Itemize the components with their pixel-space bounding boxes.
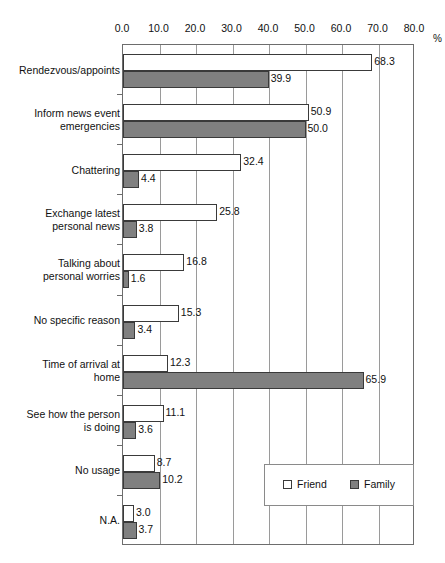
bar-value-family-1: 50.0 xyxy=(308,122,328,135)
axis-tick-mark-7 xyxy=(117,395,122,396)
bar-family-3 xyxy=(123,221,137,238)
bar-family-4 xyxy=(123,271,129,288)
legend-item-family: Family xyxy=(350,478,395,491)
bar-family-9 xyxy=(123,522,137,539)
axis-tick-mark-9 xyxy=(117,495,122,496)
x-tick-50-0: 50.0 xyxy=(294,22,314,34)
x-tick-20-0: 20.0 xyxy=(185,22,205,34)
category-label-8: No usage xyxy=(0,464,120,477)
axis-tick-mark-6 xyxy=(117,345,122,346)
category-label-5: No specific reason xyxy=(0,314,120,327)
bar-friend-8 xyxy=(123,455,155,472)
bar-chart: 0.010.020.030.040.050.060.070.080.0 % Fr… xyxy=(0,0,445,563)
category-label-6: Time of arrival at home xyxy=(0,358,120,384)
category-label-2: Chattering xyxy=(0,164,120,177)
axis-tick-mark-8 xyxy=(117,445,122,446)
legend: Friend Family xyxy=(264,464,414,506)
plot-area: Friend Family xyxy=(122,44,414,545)
bar-value-friend-0: 68.3 xyxy=(374,55,394,68)
bar-value-family-5: 3.4 xyxy=(137,323,152,336)
bar-friend-3 xyxy=(123,204,217,221)
category-label-7: See how the person is doing xyxy=(0,408,120,434)
legend-swatch-friend-icon xyxy=(283,480,292,489)
x-tick-60-0: 60.0 xyxy=(331,22,351,34)
bar-value-friend-1: 50.9 xyxy=(311,105,331,118)
axis-tick-mark-3 xyxy=(117,194,122,195)
bar-value-family-6: 65.9 xyxy=(366,373,386,386)
bar-family-8 xyxy=(123,472,160,489)
bar-family-1 xyxy=(123,121,306,138)
bar-family-5 xyxy=(123,322,135,339)
bar-value-friend-4: 16.8 xyxy=(186,255,206,268)
bar-family-0 xyxy=(123,71,269,88)
bar-value-family-4: 1.6 xyxy=(131,272,146,285)
bar-friend-5 xyxy=(123,305,179,322)
bar-value-friend-2: 32.4 xyxy=(243,155,263,168)
category-label-3: Exchange latest personal news xyxy=(0,207,120,233)
bar-family-2 xyxy=(123,171,139,188)
bar-value-family-8: 10.2 xyxy=(162,473,182,486)
bar-friend-7 xyxy=(123,405,164,422)
bar-value-friend-7: 11.1 xyxy=(166,406,186,419)
x-tick-80-0: 80.0 xyxy=(404,22,424,34)
bar-value-friend-3: 25.8 xyxy=(219,205,239,218)
bar-value-family-2: 4.4 xyxy=(141,172,156,185)
bar-friend-9 xyxy=(123,505,134,522)
bar-value-family-7: 3.6 xyxy=(138,423,153,436)
category-label-1: Inform news event emergencies xyxy=(0,107,120,133)
x-tick-70-0: 70.0 xyxy=(367,22,387,34)
legend-swatch-family-icon xyxy=(350,480,359,489)
bar-value-family-0: 39.9 xyxy=(271,72,291,85)
legend-label-friend: Friend xyxy=(297,478,327,491)
legend-item-friend: Friend xyxy=(283,478,327,491)
bar-value-friend-6: 12.3 xyxy=(170,356,190,369)
bar-friend-0 xyxy=(123,54,372,71)
x-tick-30-0: 30.0 xyxy=(221,22,241,34)
category-label-0: Rendezvous/appoints xyxy=(0,64,120,77)
x-tick-40-0: 40.0 xyxy=(258,22,278,34)
x-axis-unit-label: % xyxy=(433,33,442,44)
axis-tick-mark-1 xyxy=(117,94,122,95)
bar-value-family-3: 3.8 xyxy=(139,222,154,235)
bar-value-friend-5: 15.3 xyxy=(181,306,201,319)
bar-friend-6 xyxy=(123,355,168,372)
category-label-4: Talking about personal worries xyxy=(0,257,120,283)
bar-friend-1 xyxy=(123,104,309,121)
x-tick-0-0: 0.0 xyxy=(115,22,130,34)
x-tick-10-0: 10.0 xyxy=(148,22,168,34)
bar-value-family-9: 3.7 xyxy=(139,523,154,536)
legend-label-family: Family xyxy=(364,478,395,491)
axis-tick-mark-4 xyxy=(117,244,122,245)
axis-tick-mark-2 xyxy=(117,144,122,145)
bar-value-friend-9: 3.0 xyxy=(136,506,151,519)
bar-family-6 xyxy=(123,372,364,389)
bar-friend-4 xyxy=(123,254,184,271)
bar-family-7 xyxy=(123,422,136,439)
bar-friend-2 xyxy=(123,154,241,171)
category-label-9: N.A. xyxy=(0,514,120,527)
bar-value-friend-8: 8.7 xyxy=(157,456,172,469)
axis-tick-mark-5 xyxy=(117,295,122,296)
